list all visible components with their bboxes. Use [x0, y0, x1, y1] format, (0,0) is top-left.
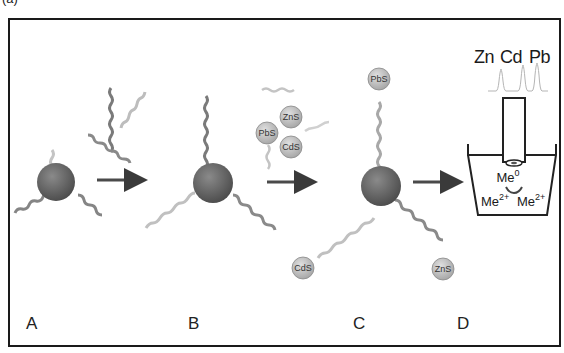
nanoparticle-label-cds-bound: CdS [294, 263, 312, 273]
peak-label-cd: Cd [500, 47, 522, 68]
stage-a-bead-assembly [15, 150, 102, 215]
magnetic-bead-a [37, 163, 75, 201]
nanoparticle-label-pbs: PbS [258, 128, 275, 138]
reduced-metal-label: Me0 [496, 168, 519, 185]
peak-label-zn: Zn [474, 47, 494, 68]
stage-label-d: D [457, 314, 469, 334]
nanoparticle-tag-cluster: ZnS PbS CdS [256, 89, 329, 170]
nanoparticle-label-cds: CdS [282, 142, 300, 152]
stage-b-bead-assembly [146, 96, 275, 230]
nanoparticle-label-zns: ZnS [283, 112, 300, 122]
magnetic-bead-c [361, 166, 401, 206]
strand-right [78, 195, 102, 215]
stage-label-b: B [188, 314, 199, 334]
nanoparticle-label-zns-bound: ZnS [435, 264, 452, 274]
stage-d-electrochemical-cell: Me0 Me2+ Me2+ [468, 63, 556, 215]
metal-ion-label-2: Me2+ [517, 192, 545, 209]
free-probe-strands [88, 88, 145, 163]
stage-c-bead-assembly: PbS CdS ZnS [292, 68, 454, 280]
magnetic-bead-b [193, 163, 233, 203]
working-electrode [503, 98, 525, 162]
stage-label-a: A [26, 314, 37, 334]
peak-label-pb: Pb [529, 47, 550, 68]
metal-ion-label-1: Me2+ [481, 192, 509, 209]
nanoparticle-label-pbs-bound: PbS [370, 74, 387, 84]
stage-label-c: C [353, 314, 365, 334]
